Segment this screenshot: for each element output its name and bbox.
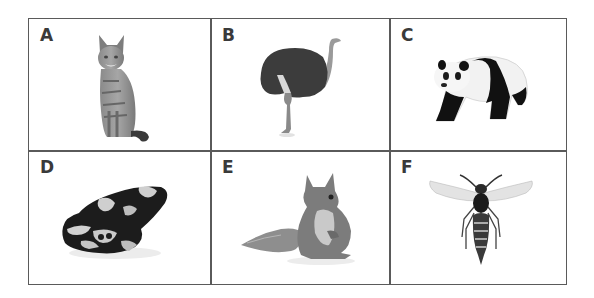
panel-label: E — [222, 157, 234, 177]
squirrel-icon — [241, 171, 363, 267]
panel-label: A — [40, 25, 53, 45]
animal-grid: A B — [28, 18, 567, 285]
panel-b: B — [211, 19, 389, 150]
frog-icon — [59, 181, 171, 261]
panel-e: E — [211, 151, 389, 285]
panel-label: D — [40, 157, 54, 177]
cat-icon — [91, 31, 161, 143]
panda-icon — [426, 39, 530, 123]
wasp-icon — [426, 171, 536, 269]
panel-d: D — [29, 151, 210, 285]
panel-c: C — [390, 19, 567, 150]
panel-a: A — [29, 19, 210, 150]
ostrich-icon — [259, 35, 349, 139]
panel-label: F — [401, 157, 413, 177]
panel-label: C — [401, 25, 413, 45]
panel-f: F — [390, 151, 567, 285]
panel-label: B — [222, 25, 235, 45]
